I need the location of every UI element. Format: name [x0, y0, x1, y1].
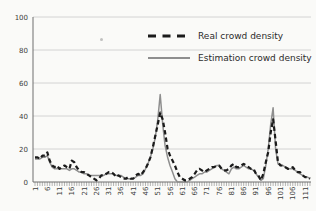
x-tick-label: 76: [216, 186, 224, 195]
y-tick-label: 60: [19, 80, 28, 88]
y-tick-label: 0: [24, 179, 28, 187]
legend-item-real: Real crowd density: [147, 25, 312, 47]
x-tick-label: 86: [240, 186, 248, 195]
y-tick-label: 40: [19, 113, 28, 121]
x-tick-label: 81: [228, 187, 236, 196]
y-tick-label: 20: [19, 146, 28, 154]
y-tick-label: 100: [15, 14, 28, 22]
x-tick-label: 31: [105, 187, 113, 196]
x-tick-label: 71: [203, 187, 211, 196]
x-tick-label: 21: [81, 187, 89, 196]
x-tick-label: 101: [277, 187, 285, 200]
x-tick-label: 16: [68, 186, 76, 195]
legend-item-estimation: Estimation crowd density: [147, 47, 312, 69]
crowd-density-chart: 0204060801001611162126313641465156616671…: [0, 0, 316, 211]
estimation-crowd-density-line-sample: [147, 54, 191, 62]
legend-label-estimation: Estimation crowd density: [198, 53, 312, 63]
x-tick-label: 111: [302, 187, 310, 200]
legend: Real crowd density Estimation crowd dens…: [147, 25, 312, 69]
real-crowd-density-line-sample: [147, 32, 191, 40]
x-tick-label: 41: [130, 187, 138, 196]
x-tick-label: 91: [252, 187, 260, 196]
x-tick-label: 6: [44, 186, 52, 191]
x-tick-label: 1: [32, 187, 40, 191]
x-tick-label: 36: [117, 186, 125, 195]
x-tick-label: 66: [191, 186, 199, 195]
x-tick-label: 96: [265, 186, 273, 195]
x-tick-label: 46: [142, 186, 150, 195]
x-tick-label: 56: [167, 186, 175, 195]
x-tick-label: 106: [289, 186, 297, 200]
x-tick-label: 61: [179, 187, 187, 196]
x-tick-label: 11: [56, 187, 64, 196]
scan-artifact: [100, 38, 103, 41]
x-tick-label: 26: [93, 186, 101, 195]
y-tick-label: 80: [19, 47, 28, 55]
x-tick-label: 51: [154, 187, 162, 196]
legend-label-real: Real crowd density: [198, 31, 283, 41]
series-estimation-crowd-density: [35, 95, 310, 182]
